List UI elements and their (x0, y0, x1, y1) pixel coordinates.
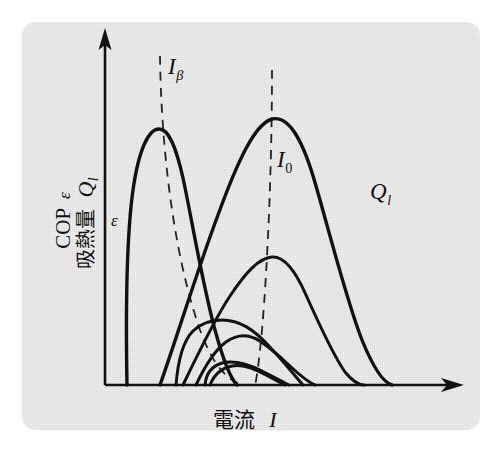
y-axis-label-line-2: 吸熱量Ql (75, 140, 101, 306)
i-beta-letter: I (168, 54, 176, 79)
q-l-subscript: l (387, 192, 391, 208)
axes-group (99, 28, 465, 392)
ql-curve-4 (210, 366, 285, 385)
cop-curve-2 (176, 320, 303, 385)
figure-root: COPε 吸熱量Ql 電流I Iβ I0 Ql ε (0, 0, 499, 450)
x-axis-label: 電流I (213, 409, 276, 431)
y-axis-cop-text: COP (51, 208, 75, 249)
annotation-epsilon: ε (111, 212, 118, 229)
y-axis-q-subscript: l (86, 177, 101, 181)
x-axis-denryu-text: 電流 (213, 408, 255, 432)
y-axis-label-group: COPε 吸熱量Ql (28, 120, 98, 320)
y-axis-q-letter: Q (73, 182, 98, 198)
annotation-i-beta: Iβ (168, 55, 183, 82)
y-axis-label-line-1: COPε (53, 138, 74, 304)
y-axis-kyunetsuryo-text: 吸熱量 (74, 209, 98, 269)
guide-line-i-beta (160, 56, 244, 386)
ql-curve-1 (160, 119, 392, 385)
y-axis-ql-symbol: Ql (73, 177, 98, 208)
i-beta-subscript: β (176, 67, 184, 83)
i-zero-letter: I (277, 147, 285, 172)
x-axis-current-symbol: I (255, 407, 276, 432)
ql-curve-family (160, 119, 392, 385)
annotation-i-zero: I0 (277, 148, 292, 175)
annotation-q-l: Ql (370, 180, 391, 207)
y-axis-epsilon-symbol: ε (55, 192, 74, 208)
i-zero-subscript: 0 (285, 160, 293, 176)
q-l-letter: Q (370, 179, 387, 204)
